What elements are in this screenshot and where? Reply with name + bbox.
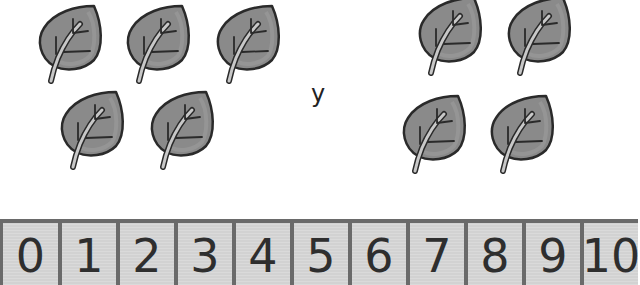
leaf-icon xyxy=(505,0,573,76)
number-cell: 5 xyxy=(290,223,348,285)
number-cell: 4 xyxy=(232,223,290,285)
leaf-icon xyxy=(416,0,484,76)
conjunction-text: y xyxy=(311,82,325,106)
number-label: 6 xyxy=(364,233,393,279)
leaf-icon xyxy=(124,2,192,84)
number-cell: 9 xyxy=(522,223,580,285)
number-cell: 3 xyxy=(174,223,232,285)
leaf-icon xyxy=(36,2,104,84)
number-label: 7 xyxy=(422,233,451,279)
leaf-icon xyxy=(214,2,282,84)
number-label: 2 xyxy=(132,233,161,279)
leaf-icon xyxy=(58,88,126,170)
number-cell: 2 xyxy=(116,223,174,285)
number-cell: 6 xyxy=(348,223,406,285)
leaf-icon xyxy=(148,88,216,170)
number-label: 5 xyxy=(306,233,335,279)
number-label: 1 xyxy=(74,233,103,279)
number-cell: 7 xyxy=(406,223,464,285)
number-label: 3 xyxy=(190,233,219,279)
number-cell: 0 xyxy=(0,223,58,285)
number-label: 4 xyxy=(248,233,277,279)
number-label: 9 xyxy=(538,233,567,279)
number-cell: 8 xyxy=(464,223,522,285)
number-line: 012345678910 xyxy=(0,219,638,285)
leaf-icon xyxy=(400,92,468,174)
number-cell: 1 xyxy=(58,223,116,285)
number-label: 10 xyxy=(582,233,640,279)
leaf-icon xyxy=(488,92,556,174)
number-cell: 10 xyxy=(580,223,638,285)
number-label: 8 xyxy=(480,233,509,279)
number-label: 0 xyxy=(16,233,45,279)
